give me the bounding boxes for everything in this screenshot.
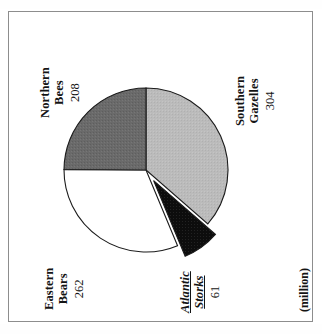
slice-label-atlantic-storks: Atlantic Storks 61 <box>178 271 222 313</box>
slice-label-line2: Storks <box>192 271 206 313</box>
slice-label-line1: Southern <box>233 76 247 126</box>
slice-label-southern-gazelles: Southern Gazelles 304 <box>233 76 277 126</box>
slice-label-eastern-bears: Eastern Bears 262 <box>42 268 86 310</box>
unit-label: (million) <box>297 268 312 312</box>
slice-label-line1: Northern <box>38 67 52 118</box>
slice-label-line2: Bears <box>56 268 70 310</box>
slice-value: 304 <box>263 76 277 126</box>
scanned-page: Northern Bees 208 Southern Gazelles 304 … <box>0 0 322 334</box>
slice-value: 208 <box>68 67 82 118</box>
slice-label-northern-bees: Northern Bees 208 <box>38 67 82 118</box>
slice-label-line1: Eastern <box>42 268 56 310</box>
slice-label-line2: Gazelles <box>247 76 261 126</box>
slice-label-line1: Atlantic <box>178 271 192 313</box>
slice-label-line2: Bees <box>52 67 66 118</box>
slice-value: 262 <box>72 268 86 310</box>
slice-value: 61 <box>208 271 222 313</box>
